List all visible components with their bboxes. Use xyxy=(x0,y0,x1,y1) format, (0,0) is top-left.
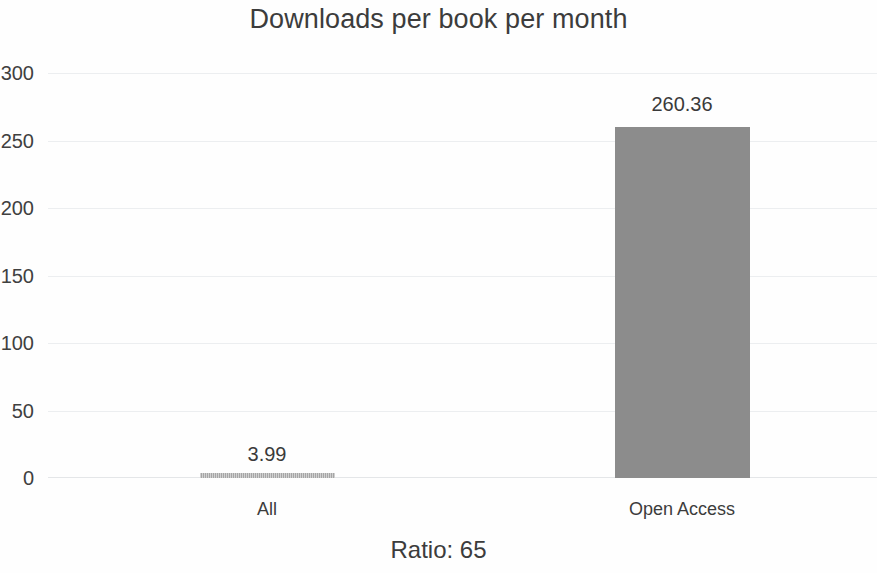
gridline-0 xyxy=(48,477,877,478)
y-axis-tick-300: 300 xyxy=(0,62,34,85)
plot-area xyxy=(48,73,877,478)
y-axis-tick-100: 100 xyxy=(0,332,34,355)
gridline-100 xyxy=(48,343,877,344)
y-axis-tick-250: 250 xyxy=(0,129,34,152)
gridline-300 xyxy=(48,73,877,74)
data-label-open-access: 260.36 xyxy=(651,93,712,116)
y-axis-tick-0: 0 xyxy=(0,467,34,490)
x-axis-label-open-access: Open Access xyxy=(629,499,735,520)
gridline-250 xyxy=(48,141,877,142)
bar-open-access[interactable] xyxy=(615,127,750,478)
gridline-50 xyxy=(48,411,877,412)
chart-title: Downloads per book per month xyxy=(0,4,877,35)
gridline-200 xyxy=(48,208,877,209)
x-axis-label-all: All xyxy=(257,499,277,520)
y-axis-tick-50: 50 xyxy=(0,399,34,422)
bar-all[interactable] xyxy=(200,473,335,478)
gridline-150 xyxy=(48,276,877,277)
y-axis-tick-150: 150 xyxy=(0,264,34,287)
chart-figure: Downloads per book per month 300 250 200… xyxy=(0,0,877,573)
data-label-all: 3.99 xyxy=(248,443,287,466)
chart-caption: Ratio: 65 xyxy=(0,536,877,564)
y-axis-tick-200: 200 xyxy=(0,197,34,220)
